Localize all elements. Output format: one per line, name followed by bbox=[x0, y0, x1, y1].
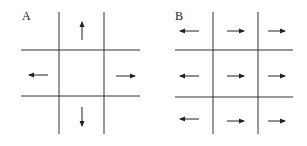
panel-b-grid bbox=[175, 12, 293, 134]
panel-a-label: A bbox=[22, 9, 31, 23]
panel-b: B bbox=[175, 9, 293, 134]
panel-a-grid bbox=[21, 12, 140, 134]
diagram: A B bbox=[0, 0, 307, 146]
panel-b-label: B bbox=[175, 9, 183, 23]
panel-a: A bbox=[21, 9, 140, 134]
